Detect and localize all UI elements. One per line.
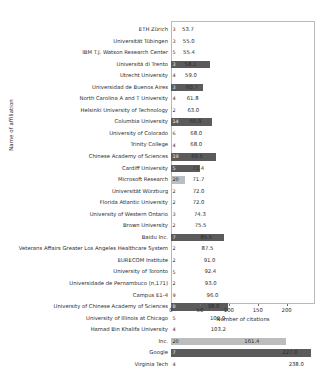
bar-track: 360.7 — [171, 82, 315, 94]
bar-count-label: 14 — [171, 118, 179, 125]
bar-row: Universität Tübingen355.0 — [0, 36, 335, 48]
category-label: Google — [0, 347, 169, 359]
bar-count-label: 3 — [171, 211, 176, 218]
category-label: Hamad Bin Khalifa University — [0, 324, 169, 336]
bar-row: Helsinki University of Technology263.0 — [0, 105, 335, 117]
bar-value-label: 72.0 — [193, 186, 205, 198]
bar-count-label: 3 — [171, 26, 176, 33]
bar-value-label: 238.0 — [289, 359, 304, 370]
bar-row: Universität Würzburg272.0 — [0, 186, 335, 198]
bar — [171, 338, 286, 345]
category-label: Universidad de Buenos Aires — [0, 82, 169, 94]
bar-row: University of Toronto592.4 — [0, 266, 335, 278]
bar-count-label: 4 — [171, 72, 176, 79]
bar-count-label: 19 — [171, 153, 179, 160]
bar-count-label: 3 — [171, 84, 176, 91]
bar-count-label: 20 — [171, 176, 179, 183]
bar-value-label: 75.5 — [195, 220, 207, 232]
bar-value-label: 71.7 — [192, 174, 204, 186]
bar-count-label: 5 — [171, 49, 176, 56]
bar-track: 4238.0 — [171, 359, 315, 370]
bar-count-label: 5 — [171, 269, 176, 276]
bar-track: 1969.5 — [171, 151, 315, 163]
bar-count-label: 4 — [171, 95, 176, 102]
bar-count-label: 6 — [171, 130, 176, 137]
category-label: IBM T.J. Watson Research Center — [0, 47, 169, 59]
category-label: Brown University — [0, 220, 169, 232]
bar-count-label: 3 — [171, 61, 176, 68]
bar-value-label: 93.0 — [205, 278, 217, 290]
bar-track: 358.1 — [171, 59, 315, 71]
category-label: University of Western Ontario — [0, 209, 169, 221]
bar-track: 291.0 — [171, 255, 315, 267]
bar-row: Google7227.0 — [0, 347, 335, 359]
bar-row: University of Western Ontario374.3 — [0, 209, 335, 221]
category-label: Baidu Inc. — [0, 232, 169, 244]
category-label: Universität Würzburg — [0, 186, 169, 198]
category-label: University of Toronto — [0, 266, 169, 278]
bar-value-label: 53.7 — [182, 24, 194, 36]
bar-value-label: 66.9 — [190, 116, 202, 128]
category-label: Helsinki University of Technology — [0, 105, 169, 117]
bar-track: 7227.0 — [171, 347, 315, 359]
bar-value-label: 60.7 — [186, 82, 198, 94]
category-label: University of Chinese Academy of Science… — [0, 301, 169, 313]
category-label: Universidade de Pernambuco (n,171) — [0, 278, 169, 290]
bar-track: 668.0 — [171, 128, 315, 140]
x-tick-label: 50 — [197, 307, 204, 313]
category-label: ETH Zürich — [0, 24, 169, 36]
bar-row: Veterans Affairs Greater Los Angeles Hea… — [0, 243, 335, 255]
bar-count-label: 2 — [171, 199, 176, 206]
bar-track: 355.0 — [171, 36, 315, 48]
bar-value-label: 68.0 — [190, 139, 202, 151]
category-label: Florida Atlantic University — [0, 197, 169, 209]
bar-count-label: 2 — [171, 245, 176, 252]
bar-value-label: 85.5 — [200, 232, 212, 244]
bar-value-label: 55.0 — [183, 36, 195, 48]
bar-value-label: 87.5 — [202, 243, 214, 255]
bar-row: Utrecht University459.0 — [0, 70, 335, 82]
bar-track: 1466.9 — [171, 116, 315, 128]
category-label: Veterans Affairs Greater Los Angeles Hea… — [0, 243, 169, 255]
bar-value-label: 71.4 — [192, 163, 204, 175]
bar-count-label: 2 — [171, 257, 176, 264]
bar-value-label: 96.0 — [207, 290, 219, 302]
bar-value-label: 55.4 — [183, 47, 195, 59]
bar-track: 2071.7 — [171, 174, 315, 186]
bar-row: Microsoft Research2071.7 — [0, 174, 335, 186]
bar-track: 272.0 — [171, 186, 315, 198]
bar-track: 20161.4 — [171, 336, 315, 348]
bar-count-label: 5 — [171, 165, 176, 172]
bar-row: Columbia University1466.9 — [0, 116, 335, 128]
category-label: Columbia University — [0, 116, 169, 128]
category-label: EURECOM Institute — [0, 255, 169, 267]
bar-track: 263.0 — [171, 105, 315, 117]
category-label: Campus E1-4 — [0, 290, 169, 302]
bar-value-label: 91.0 — [204, 255, 216, 267]
bar-track: 275.5 — [171, 220, 315, 232]
bar-value-label: 61.8 — [187, 93, 199, 105]
bar-count-label: 2 — [171, 222, 176, 229]
bar-count-label: 2 — [171, 107, 176, 114]
category-label: University of Illinois at Chicago — [0, 313, 169, 325]
x-tick-label: 200 — [282, 307, 292, 313]
bar-count-label: 2 — [171, 188, 176, 195]
category-label: Utrecht University — [0, 70, 169, 82]
bar-track: 461.8 — [171, 93, 315, 105]
bar-value-label: 59.0 — [185, 70, 197, 82]
bar-value-label: 74.3 — [194, 209, 206, 221]
category-label: University of Colorado — [0, 128, 169, 140]
bar-row: Campus E1-4996.0 — [0, 290, 335, 302]
bar-count-label: 4 — [171, 142, 176, 149]
bar-track: 555.4 — [171, 47, 315, 59]
category-label: Inc. — [0, 336, 169, 348]
category-label: North Carolina A and T University — [0, 93, 169, 105]
bar-row: IBM T.J. Watson Research Center555.4 — [0, 47, 335, 59]
bar-row: Virginia Tech4238.0 — [0, 359, 335, 370]
category-label: Chinese Academy of Sciences — [0, 151, 169, 163]
category-label: Universität Tübingen — [0, 36, 169, 48]
bar-track: 468.0 — [171, 139, 315, 151]
bar-row: Università di Trento358.1 — [0, 59, 335, 71]
x-tick-label: 100 — [224, 307, 234, 313]
x-tick-label: 0 — [169, 307, 172, 313]
